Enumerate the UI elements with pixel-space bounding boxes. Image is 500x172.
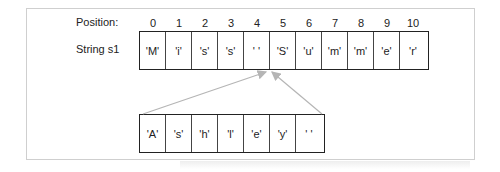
insertion-arrows — [0, 0, 500, 172]
left-arrow — [143, 72, 266, 114]
right-arrow — [272, 72, 322, 114]
